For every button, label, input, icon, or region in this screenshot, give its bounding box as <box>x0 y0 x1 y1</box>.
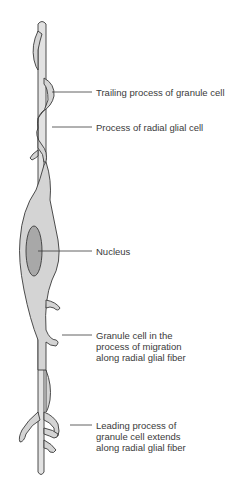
diagram-canvas <box>0 0 252 481</box>
label-leading-process: Leading process of granule cell extends … <box>96 420 186 453</box>
label-nucleus: Nucleus <box>96 246 130 257</box>
label-radial-glial-process: Process of radial glial cell <box>96 122 203 133</box>
granule-cell-body <box>20 162 61 370</box>
label-trailing-process: Trailing process of granule cell <box>96 87 225 98</box>
label-migrating-granule-cell: Granule cell in the process of migration… <box>96 330 186 363</box>
